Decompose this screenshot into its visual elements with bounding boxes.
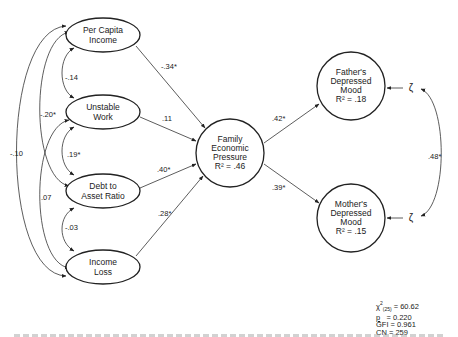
label-da-fep: .40* xyxy=(157,165,170,174)
svg-text:Income: Income xyxy=(89,35,117,45)
label-corr-pci-il: -.10 xyxy=(10,149,23,158)
corr-pci-da-curve xyxy=(40,32,69,186)
node-mothers-depressed-mood: Mother's Depressed Mood R² = .15 xyxy=(317,184,385,252)
node-unstable-work: Unstable Work xyxy=(66,95,140,129)
zeta-mother: ζ xyxy=(409,212,414,224)
label-il-fep: .28* xyxy=(158,209,171,218)
svg-text:R² = .18: R² = .18 xyxy=(336,94,367,104)
fit-statistics: χ2(25) = 60.62 p = 0.220 GFI = 0.961 CN … xyxy=(376,300,419,336)
node-per-capita-income: Per Capita Income xyxy=(66,18,140,52)
svg-text:Unstable: Unstable xyxy=(86,102,120,112)
fit-chi-square: χ2(25) = 60.62 xyxy=(376,300,419,314)
path-fep-father xyxy=(264,104,319,143)
node-fathers-depressed-mood: Father's Depressed Mood R² = .18 xyxy=(317,52,385,120)
svg-text:Per Capita: Per Capita xyxy=(83,25,123,35)
node-debt-to-asset-ratio: Debt to Asset Ratio xyxy=(66,174,140,208)
label-pci-fep: -.34* xyxy=(161,62,177,71)
node-income-loss: Income Loss xyxy=(66,250,140,284)
node-family-economic-pressure: Family Economic Pressure R² = .46 xyxy=(196,119,264,187)
label-corr-pci-da: -.20* xyxy=(40,110,56,119)
svg-text:R² = .46: R² = .46 xyxy=(215,161,246,171)
svg-text:Loss: Loss xyxy=(94,267,112,277)
label-fep-mother: .39* xyxy=(272,183,285,192)
svg-text:R² = .15: R² = .15 xyxy=(336,226,367,236)
label-corr-pci-uw: -.14 xyxy=(65,73,78,82)
zeta-father: ζ xyxy=(409,82,414,94)
label-corr-uw-il: .07 xyxy=(41,193,51,202)
path-diagram: Per Capita Income Unstable Work Debt to … xyxy=(0,0,458,337)
label-corr-uw-da: .19* xyxy=(67,150,80,159)
label-fep-father: .42* xyxy=(272,114,285,123)
label-corr-residuals: .48* xyxy=(428,152,441,161)
label-corr-da-il: -.03 xyxy=(65,223,78,232)
corr-pci-il-curve xyxy=(17,26,67,276)
svg-text:Debt to: Debt to xyxy=(89,181,117,191)
svg-text:Income: Income xyxy=(89,257,117,267)
label-uw-fep: .11 xyxy=(162,114,172,123)
svg-text:Work: Work xyxy=(93,112,113,122)
svg-text:Asset Ratio: Asset Ratio xyxy=(81,191,125,201)
